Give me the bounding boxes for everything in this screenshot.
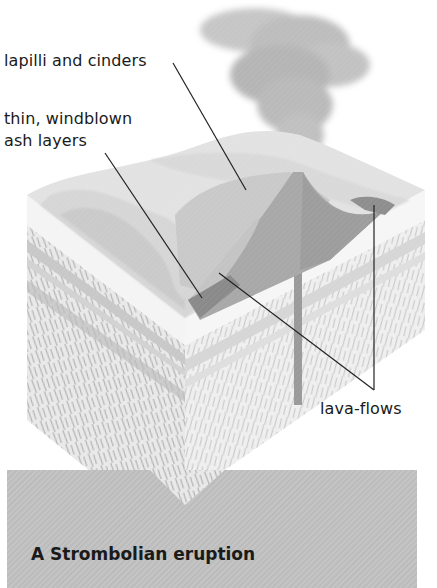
label-lava-flows: lava-flows — [320, 398, 402, 419]
label-lapilli-and-cinders: lapilli and cinders — [4, 50, 147, 71]
diagram-title: A Strombolian eruption — [31, 544, 255, 564]
label-windblown-line1: thin, windblown — [4, 108, 132, 129]
label-ash-layers-line2: ash layers — [4, 130, 87, 151]
strombolian-eruption-diagram: lapilli and cinders thin, windblown ash … — [0, 0, 437, 588]
caption-panel — [7, 470, 417, 588]
